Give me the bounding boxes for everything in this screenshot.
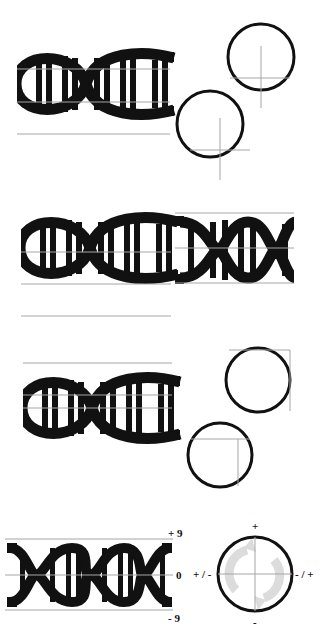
- scale-label-middle: 0: [176, 569, 182, 581]
- diagram-canvas: + 9 0 - 9 + - + / - - / +: [0, 0, 326, 644]
- dna-helix-icon: [175, 216, 296, 284]
- dna-helix-icon: [16, 52, 174, 116]
- rotation-dial: [218, 537, 292, 611]
- dial-label-top: +: [252, 520, 258, 532]
- dial-label-left: + / -: [193, 568, 212, 580]
- dna-helix-icon: [20, 216, 178, 280]
- scale-label-bottom: - 9: [168, 612, 180, 624]
- panel-1: [0, 24, 294, 180]
- circle-shape: [226, 348, 290, 412]
- dial-label-bottom: -: [253, 616, 257, 628]
- dial-label-right: - / +: [295, 568, 314, 580]
- panel-3: [0, 348, 290, 487]
- panel-4: + 9 0 - 9 + - + / - - / +: [5, 520, 314, 628]
- circle-shape: [177, 91, 243, 157]
- circle-shape: [188, 423, 252, 487]
- panel-2: [0, 200, 326, 316]
- scale-label-top: + 9: [168, 527, 183, 539]
